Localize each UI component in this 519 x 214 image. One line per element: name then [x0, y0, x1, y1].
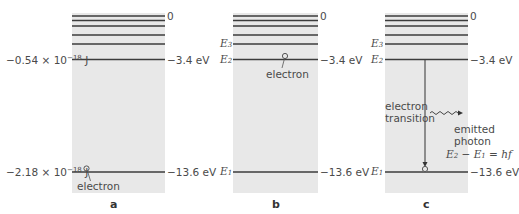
- panel-a-zero-label: 0: [167, 10, 174, 22]
- electron-icon: [422, 166, 427, 171]
- panel-b-box: [233, 13, 318, 193]
- panel-b-zero-label: 0: [320, 10, 327, 22]
- panel-a-e1-energy-joules: −2.18 × 10−18 J: [6, 166, 88, 178]
- panel-c-transition-label-line2: transition: [385, 112, 435, 124]
- panel-c-e3-label: E3: [371, 37, 383, 49]
- panel-c-e1-label: E1: [371, 165, 383, 177]
- panel-c-photon-label-line2: photon: [454, 135, 491, 147]
- panel-b-e2-energy-ev: −3.4 eV: [320, 54, 362, 66]
- panel-c-zero-label: 0: [470, 10, 477, 22]
- panel-b-caption: b: [272, 198, 280, 211]
- panel-c-photon-energy-equation: E2 − E1 = hf: [446, 148, 512, 160]
- panel-b-e2-label: E2: [220, 53, 232, 65]
- panel-b-e1-label: E1: [220, 165, 232, 177]
- panel-c-e2-energy-ev: −3.4 eV: [470, 54, 512, 66]
- panel-b-graphics: [233, 13, 318, 193]
- panel-b-e1-energy-ev: −13.6 eV: [320, 166, 369, 178]
- panel-b-e3-label: E3: [220, 37, 232, 49]
- panel-a-e2-energy-joules: −0.54 × 10−18 J: [6, 54, 88, 66]
- panel-c-caption: c: [423, 198, 430, 211]
- panel-a-electron-label: electron: [77, 180, 120, 192]
- electron-icon: [282, 53, 287, 58]
- panel-a-e2-energy-ev: −3.4 eV: [167, 54, 209, 66]
- panel-c-photon-label-line1: emitted: [454, 123, 495, 135]
- panel-c-e1-energy-ev: −13.6 eV: [470, 166, 519, 178]
- panel-c-transition-label-line1: electron: [385, 100, 428, 112]
- panel-b-electron-label: electron: [266, 68, 309, 80]
- panel-a-caption: a: [110, 198, 117, 211]
- panel-c-e2-label: E2: [371, 53, 383, 65]
- panel-a-e1-energy-ev: −13.6 eV: [167, 166, 216, 178]
